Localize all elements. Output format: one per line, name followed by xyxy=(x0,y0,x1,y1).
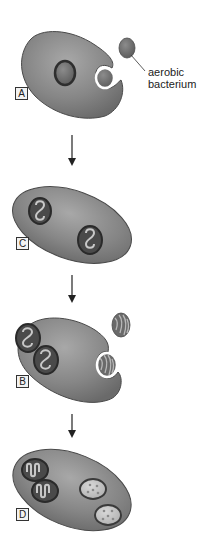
stage-label-d: D xyxy=(16,508,29,521)
host-cell-d xyxy=(1,433,143,546)
stage-label-c: C xyxy=(16,237,29,250)
mitochondrion-c1 xyxy=(29,198,51,224)
mitochondrion-d2 xyxy=(32,480,58,502)
mitochondrion-c2 xyxy=(78,226,102,254)
nucleus-a xyxy=(55,61,75,85)
callout-line xyxy=(131,55,145,71)
arrow-c-to-b xyxy=(68,275,76,303)
mitochondrion-b2 xyxy=(34,346,58,374)
host-cell-c xyxy=(2,172,142,278)
callout-line1: aerobic xyxy=(148,66,196,78)
photosynthetic-bacterium xyxy=(112,313,130,337)
engulfed-bacterium-b xyxy=(97,353,117,377)
chloroplast-d2 xyxy=(95,505,121,525)
stage-c xyxy=(2,172,142,278)
callout-line2: bacterium xyxy=(148,78,196,90)
mitochondrion-d1 xyxy=(22,459,48,481)
aerobic-bacterium-label: aerobic bacterium xyxy=(148,66,196,90)
arrow-b-to-d xyxy=(68,414,76,438)
stage-b xyxy=(16,313,130,402)
stage-label-a: A xyxy=(15,87,28,100)
stage-label-b: B xyxy=(16,375,29,388)
stage-a xyxy=(22,32,145,119)
arrow-a-to-c xyxy=(68,135,76,166)
chloroplast-d1 xyxy=(80,479,106,499)
engulfed-bacterium-a xyxy=(96,68,114,88)
stage-d xyxy=(1,433,143,546)
aerobic-bacterium xyxy=(119,38,135,58)
mitochondrion-b1 xyxy=(16,324,40,352)
